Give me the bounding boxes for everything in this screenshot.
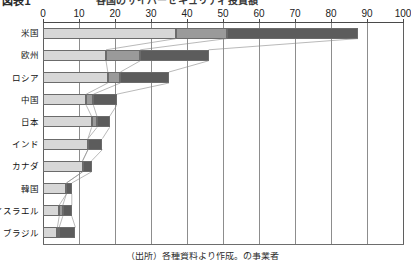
x-tick-label-100: 100	[395, 8, 411, 19]
y-category-label: カナダ	[12, 162, 39, 171]
connector-line	[88, 127, 97, 138]
segment-connector-lines	[43, 22, 403, 244]
x-tick-label-0: 0	[40, 8, 46, 19]
connector-line	[59, 194, 66, 205]
x-tick-mark-0	[43, 19, 44, 23]
y-category-label: 中国	[21, 96, 39, 105]
connector-line	[88, 127, 92, 138]
connector-line	[59, 216, 63, 227]
connector-line	[102, 127, 109, 138]
x-tick-label-90: 90	[361, 8, 372, 19]
y-category-label: イスラエル	[0, 207, 39, 216]
x-axis-tick-labels: 0102030405060708090100	[0, 8, 411, 21]
x-tick-mark-90	[367, 19, 368, 23]
connector-line	[120, 61, 140, 72]
connector-line	[57, 216, 59, 227]
x-tick-label-70: 70	[289, 8, 300, 19]
y-category-label: 韓国	[21, 185, 39, 194]
connector-line	[106, 39, 176, 50]
x-tick-label-80: 80	[325, 8, 336, 19]
x-tick-label-50: 50	[217, 8, 228, 19]
connector-line	[86, 105, 91, 116]
connector-line	[110, 105, 117, 116]
x-tick-mark-70	[295, 19, 296, 23]
figure-caption-text: （出所）各種資料より作成。の事業者	[126, 252, 279, 260]
x-tick-mark-60	[259, 19, 260, 23]
x-tick-mark-100	[403, 19, 404, 23]
connector-line	[63, 194, 67, 205]
x-tick-mark-20	[115, 19, 116, 23]
x-tick-label-10: 10	[73, 8, 84, 19]
connector-line	[72, 216, 76, 227]
x-tick-mark-10	[79, 19, 80, 23]
connector-line	[169, 61, 209, 72]
figure-title-sub: 各国のサイバーセキュリティ投資額	[96, 0, 258, 7]
y-category-label: インド	[12, 140, 39, 149]
x-tick-label-20: 20	[109, 8, 120, 19]
connector-line	[209, 39, 358, 50]
y-category-label: 米国	[21, 29, 39, 38]
figure-title-main: 図表1	[2, 0, 31, 7]
x-tick-label-40: 40	[181, 8, 192, 19]
x-tick-mark-40	[187, 19, 188, 23]
x-tick-label-30: 30	[145, 8, 156, 19]
connector-line	[92, 150, 103, 161]
figure-title-clipped: 図表1 各国のサイバーセキュリティ投資額	[0, 0, 411, 7]
y-category-label: 日本	[21, 118, 39, 127]
x-tick-mark-80	[331, 19, 332, 23]
connector-line	[106, 61, 108, 72]
figure-caption-clipped: （出所）各種資料より作成。の事業者	[0, 252, 411, 260]
connector-line	[93, 105, 97, 116]
y-category-label: ロシア	[12, 74, 39, 83]
chart-figure: 図表1 各国のサイバーセキュリティ投資額 0102030405060708090…	[0, 0, 411, 260]
connector-line	[140, 39, 226, 50]
plot-bottom-border	[43, 244, 404, 245]
y-axis-category-labels: 米国欧州ロシア中国日本インドカナダ韓国イスラエルブラジル	[0, 22, 41, 244]
gridline-100	[403, 22, 404, 244]
y-category-label: 欧州	[21, 51, 39, 60]
x-tick-mark-30	[151, 19, 152, 23]
connector-line	[83, 150, 88, 161]
x-tick-mark-50	[223, 19, 224, 23]
y-category-label: ブラジル	[3, 229, 39, 238]
connector-line	[117, 83, 169, 94]
x-tick-label-60: 60	[253, 8, 264, 19]
